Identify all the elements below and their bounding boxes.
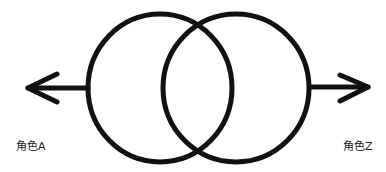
right-circle [163,14,309,162]
left-arrow-icon [28,74,88,102]
right-arrow-icon [310,75,368,101]
role-a-label: 角色A [16,137,46,153]
role-z-label: 角色Z [343,137,373,153]
left-circle [88,14,232,162]
venn-diagram [0,0,386,172]
